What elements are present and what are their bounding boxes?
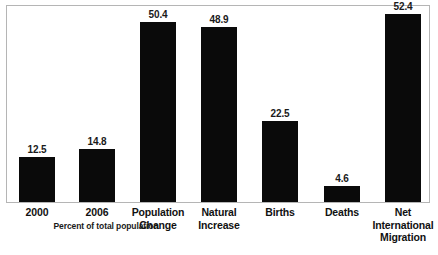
bar-rect [262, 121, 298, 202]
bar-value-label: 12.5 [27, 144, 46, 155]
bar-value-label: 48.9 [209, 14, 228, 25]
bar-value-label: 22.5 [270, 108, 289, 119]
bar-rect [201, 27, 237, 202]
category-labels: 2000 2006 Population Change Natural Incr… [6, 206, 430, 255]
category-label-line: International [366, 219, 438, 232]
category-label-net-international-migration: Net International Migration [366, 206, 438, 244]
category-label-line: Migration [366, 231, 438, 244]
bar-rect [324, 186, 360, 202]
bar-rect [79, 149, 115, 202]
bar-rect [385, 14, 421, 202]
bar-value-label: 50.4 [148, 9, 167, 20]
bars-layer: 12.5 14.8 50.4 48.9 22.5 4.6 52.4 [6, 5, 430, 203]
bar-chart: 12.5 14.8 50.4 48.9 22.5 4.6 52.4 [0, 0, 438, 255]
bar-rect [140, 22, 176, 202]
bar-value-label: 4.6 [335, 173, 349, 184]
bar-value-label: 52.4 [393, 1, 412, 12]
bar-rect [19, 157, 55, 202]
category-label-line: Net [366, 206, 438, 219]
axis-note: Percent of total population [6, 221, 206, 231]
bar-value-label: 14.8 [87, 136, 106, 147]
